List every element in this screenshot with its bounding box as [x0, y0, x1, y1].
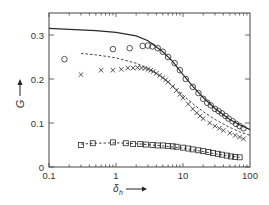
y-tick-label: 0 — [39, 162, 44, 173]
x-axis-label: δ h — [113, 183, 147, 196]
square-marker — [160, 143, 165, 148]
cross-marker — [99, 68, 104, 73]
square-marker — [131, 142, 136, 147]
x-tick-label: 0.1 — [42, 170, 55, 181]
y-tick-label: 0.2 — [31, 74, 44, 85]
x-tick-label: 1 — [113, 170, 118, 181]
circle-marker — [110, 46, 116, 52]
y-tick-label: 0.3 — [31, 30, 44, 41]
cross-marker — [201, 116, 206, 121]
cross-marker — [228, 131, 233, 136]
cross-marker — [186, 102, 191, 107]
circle-marker — [127, 45, 133, 51]
cross-marker — [213, 124, 218, 129]
cross-marker — [207, 121, 212, 126]
x-tick-label: 10 — [178, 170, 189, 181]
circle-marker — [62, 56, 68, 62]
y-arrow-icon — [18, 79, 23, 85]
square-marker — [110, 140, 115, 145]
cross-marker — [143, 66, 148, 71]
axis-ticks — [49, 13, 250, 167]
cross-marker — [79, 72, 84, 77]
cross-marker — [166, 80, 171, 85]
y-label-text: G — [14, 99, 26, 108]
tick-labels: 0.111010000.10.20.3 — [31, 30, 258, 182]
plot-frame — [49, 13, 250, 167]
square-marker — [78, 143, 83, 148]
plot-border — [49, 13, 250, 167]
cross-marker — [233, 133, 238, 138]
cross-marker — [170, 84, 175, 89]
circle-marker — [140, 43, 146, 49]
cross-marker — [190, 107, 195, 112]
square-marker — [196, 148, 201, 153]
cross-marker — [119, 67, 124, 72]
y-tick-label: 0.1 — [31, 118, 44, 129]
y-axis-label: G — [14, 79, 26, 108]
dashed-curve — [81, 54, 250, 136]
chart: 0.111010000.10.20.3 δ h G — [0, 0, 269, 205]
cross-marker — [111, 68, 116, 73]
series-layer — [49, 28, 250, 159]
cross-marker — [161, 75, 166, 80]
cross-marker — [181, 96, 186, 101]
x-tick-label: 100 — [242, 170, 258, 181]
cross-marker — [125, 66, 130, 71]
x-arrow-icon — [142, 187, 147, 192]
x-label-sub: h — [119, 189, 123, 196]
cross-marker — [131, 66, 136, 71]
